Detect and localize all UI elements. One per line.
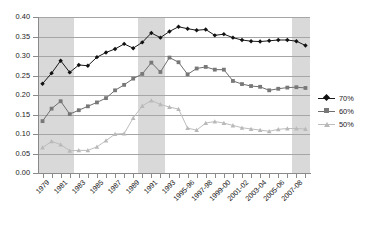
series-marker-60: [222, 68, 226, 72]
series-marker-60: [113, 88, 117, 92]
series-marker-70: [185, 27, 189, 31]
series-marker-70: [194, 28, 198, 32]
series-marker-60: [304, 86, 308, 90]
series-marker-50: [149, 98, 154, 102]
series-marker-60: [249, 84, 253, 88]
chart-figure: 0.000.050.100.150.200.250.300.350.40 197…: [0, 0, 374, 239]
series-marker-70: [294, 39, 298, 43]
series-marker-60: [59, 99, 63, 103]
series-marker-60: [86, 104, 90, 108]
series-marker-60: [267, 88, 271, 92]
legend-item-70[interactable]: 70%: [318, 92, 370, 105]
legend-item-50[interactable]: 50%: [318, 118, 370, 131]
series-marker-60: [41, 119, 45, 123]
series-marker-70: [303, 43, 307, 47]
series-marker-70: [222, 32, 226, 36]
legend-marker-diamond-icon: [323, 94, 330, 101]
series-marker-60: [50, 107, 54, 111]
series-marker-60: [168, 56, 172, 60]
series-marker-70: [276, 38, 280, 42]
series-marker-60: [68, 112, 72, 116]
y-tick-label: 0.30: [0, 52, 30, 59]
legend-marker-square-icon: [324, 108, 329, 113]
series-marker-60: [285, 86, 289, 90]
series-marker-70: [176, 25, 180, 29]
series-marker-50: [49, 139, 54, 143]
x-tick-mark: [179, 174, 180, 178]
series-marker-60: [258, 85, 262, 89]
y-tick-label: 0.00: [0, 169, 30, 176]
series-marker-60: [77, 108, 81, 112]
x-tick-mark: [124, 174, 125, 178]
x-tick-mark: [251, 174, 252, 178]
x-tick-mark: [160, 174, 161, 178]
x-tick-mark: [305, 174, 306, 178]
series-marker-60: [204, 65, 208, 69]
series-marker-70: [104, 50, 108, 54]
x-tick-mark: [287, 174, 288, 178]
x-tick-mark: [197, 174, 198, 178]
series-marker-70: [267, 39, 271, 43]
x-tick-mark: [70, 174, 71, 178]
series-marker-70: [231, 35, 235, 39]
x-tick-mark: [52, 174, 53, 178]
series-line-50: [43, 100, 306, 150]
series-marker-60: [213, 68, 217, 72]
x-tick-mark: [233, 174, 234, 178]
series-marker-50: [185, 126, 190, 130]
x-tick-mark: [106, 174, 107, 178]
series-marker-60: [104, 96, 108, 100]
series-marker-60: [131, 77, 135, 81]
legend-label-50: 50%: [339, 118, 354, 131]
y-tick-label: 0.25: [0, 72, 30, 79]
y-tick-label: 0.15: [0, 111, 30, 118]
series-marker-70: [285, 38, 289, 42]
series-marker-70: [113, 47, 117, 51]
x-tick-mark: [88, 174, 89, 178]
series-marker-60: [195, 67, 199, 71]
x-tick-mark: [215, 174, 216, 178]
y-tick-label: 0.40: [0, 13, 30, 20]
series-marker-60: [159, 70, 163, 74]
series-line-60: [43, 58, 306, 122]
series-marker-70: [258, 39, 262, 43]
plot-series-group: [38, 17, 310, 173]
series-marker-60: [149, 61, 153, 65]
series-marker-60: [186, 72, 190, 76]
legend-item-60[interactable]: 60%: [318, 105, 370, 118]
y-tick-label: 0.10: [0, 130, 30, 137]
series-marker-60: [276, 87, 280, 91]
series-marker-60: [177, 60, 181, 64]
series-marker-60: [95, 101, 99, 105]
y-tick-label: 0.35: [0, 33, 30, 40]
legend-label-60: 60%: [339, 105, 354, 118]
series-line-70: [43, 27, 306, 84]
x-tick-mark: [269, 174, 270, 178]
x-tick-mark: [142, 174, 143, 178]
y-tick-label: 0.05: [0, 150, 30, 157]
legend-label-70: 70%: [339, 92, 354, 105]
series-marker-70: [249, 39, 253, 43]
legend-marker-triangle-icon: [324, 122, 330, 127]
y-tick-label: 0.20: [0, 91, 30, 98]
series-marker-60: [231, 79, 235, 83]
series-marker-60: [122, 83, 126, 87]
series-marker-60: [240, 82, 244, 86]
series-marker-70: [122, 42, 126, 46]
series-marker-70: [240, 38, 244, 42]
series-marker-60: [295, 85, 299, 89]
series-marker-50: [140, 104, 145, 108]
series-marker-60: [140, 72, 144, 76]
chart-legend: 70% 60% 50%: [318, 92, 370, 131]
